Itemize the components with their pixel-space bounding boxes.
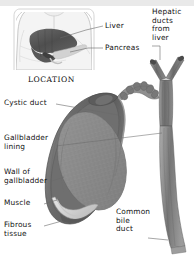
gallbladder-group bbox=[45, 93, 137, 224]
cystic-duct-group bbox=[118, 81, 160, 101]
torso-inset-group bbox=[13, 8, 95, 70]
anatomy-artwork bbox=[0, 0, 194, 259]
figure-canvas: Liver Pancreas LOCATION Hepatic ducts fr… bbox=[0, 0, 194, 259]
common-bile-duct-group bbox=[160, 126, 186, 254]
